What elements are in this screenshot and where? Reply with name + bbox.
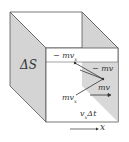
length-label: vxΔt — [80, 109, 96, 120]
axis-label: x — [100, 122, 105, 132]
momentum-label-right-upper: − mv — [92, 64, 113, 73]
momentum-label-top: − mvx — [53, 51, 77, 62]
momentum-label-right-lower: mv — [98, 83, 110, 92]
momentum-label-bottom: mvx — [62, 93, 77, 104]
area-label: ΔS — [20, 58, 37, 72]
